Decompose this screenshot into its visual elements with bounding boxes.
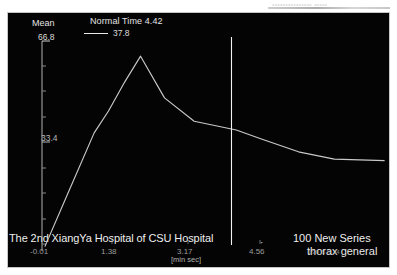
overlay-series: 100 New Series [293, 232, 371, 244]
clipped-header-smear [268, 7, 390, 9]
density-curve [45, 56, 385, 246]
overlay-protocol: thorax general [307, 245, 377, 257]
perfusion-viewer: ••••••••••••••• ••••• [0, 0, 397, 275]
legend-series-value: 37.8 [113, 28, 130, 38]
chart-legend[interactable]: 37.8 [84, 28, 130, 38]
chart-frame[interactable]: Mean 66.8 33.4 Normal Time 4.42 37.8 -0.… [7, 12, 390, 268]
x-tick-label-4: 4.56 [249, 247, 265, 256]
x-axis-unit-label: [min sec] [171, 255, 201, 264]
x-tick-label-2: 1.38 [101, 247, 117, 256]
x-tick-label-1: -0.01 [30, 247, 48, 256]
overlay-institution: The 2nd XiangYa Hospital of CSU Hospital [9, 232, 213, 244]
time-density-plot[interactable] [8, 13, 389, 267]
overlay-separator: · [260, 237, 263, 248]
legend-line-swatch [84, 33, 108, 34]
